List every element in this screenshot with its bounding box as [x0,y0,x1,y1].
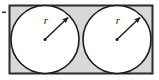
left-circle-center-dot [44,38,47,41]
right-circle-center-dot [116,38,119,41]
figure-root: r r [0,0,159,80]
left-edge-tick-mark [2,12,6,14]
right-radius-label: r [116,14,121,26]
geometry-diagram: r r [0,0,159,80]
left-radius-label: r [44,14,49,26]
